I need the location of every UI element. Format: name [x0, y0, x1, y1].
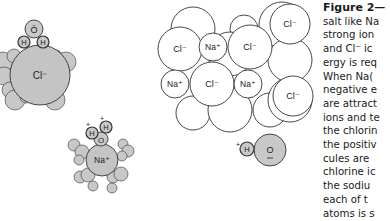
caption-line: negative e	[323, 83, 390, 97]
sodium-label: Na⁺	[167, 79, 183, 89]
plus-charge: +	[100, 115, 104, 122]
sodium-water-molecule: OH+H+	[86, 115, 112, 147]
hydrated-sodium-ion: Na⁺	[86, 144, 118, 176]
chloride-label: Cl⁻	[173, 44, 187, 54]
caption-line: ions and te	[323, 111, 390, 125]
sodium-label: Na⁺	[240, 79, 256, 89]
water-shell-atom	[107, 183, 117, 193]
water-shell-atom	[117, 151, 127, 161]
water-shell-atom	[74, 155, 84, 165]
chloride-label: Cl⁻	[205, 79, 219, 89]
caption-line: When Na(	[323, 70, 390, 84]
water-shell-atom	[114, 167, 128, 181]
water-shell-atom	[88, 181, 98, 191]
oxygen-label: O	[98, 136, 104, 145]
chloride-label: Cl⁻	[283, 19, 297, 29]
chloride-water-molecule: ŌHH	[18, 20, 49, 48]
caption-line: atoms is s	[323, 207, 390, 221]
caption-line: each of t	[323, 193, 390, 207]
caption-line: are attract	[323, 97, 390, 111]
caption-line: cules are	[323, 152, 390, 166]
caption-title: Figure 2—	[323, 1, 390, 15]
hydrated-chloride-ion: Cl⁻	[10, 45, 70, 105]
oxygen-label: Ō	[30, 25, 37, 35]
caption-line: and Cl⁻ ic	[323, 42, 390, 56]
figure-caption: Figure 2— salt like Na strong ion and Cl…	[323, 1, 390, 220]
plus-charge: +	[236, 141, 240, 148]
hydrogen-label: H	[244, 145, 249, 154]
caption-line: the sodiu	[323, 179, 390, 193]
caption-line: the positiv	[323, 138, 390, 152]
caption-line: the chlorin	[323, 124, 390, 138]
nacl-dissolution-diagram: Cl⁻Na⁺Cl⁻Cl⁻Na⁺Cl⁻Na⁺Cl⁻ Cl⁻ ŌHH Na⁺ OH+…	[0, 0, 320, 211]
chloride-label: Cl⁻	[243, 42, 257, 52]
hydrogen-label: H	[103, 123, 108, 132]
caption-line: salt like Na	[323, 15, 390, 29]
chloride-label: Cl⁻	[286, 91, 300, 101]
crystal-atom	[268, 38, 312, 82]
caption-line: chlorine ic	[323, 165, 390, 179]
caption-line: strong ion	[323, 28, 390, 42]
chloride-label: Cl⁻	[33, 70, 47, 81]
hydrogen-label: H	[89, 129, 94, 138]
hydrogen-label: H	[40, 38, 45, 47]
sodium-label: Na⁺	[205, 42, 221, 52]
hydrogen-label: H	[21, 38, 26, 47]
plus-charge: +	[86, 121, 90, 128]
sodium-label: Na⁺	[94, 155, 110, 165]
free-water-molecule: OH+	[236, 134, 286, 166]
oxygen-label: O	[266, 145, 273, 155]
caption-line: ergy is req	[323, 56, 390, 70]
